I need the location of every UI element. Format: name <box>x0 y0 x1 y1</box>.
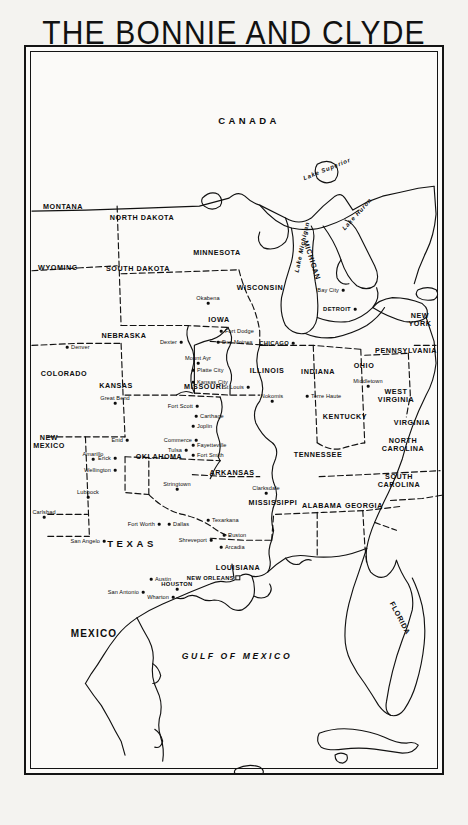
city-marker <box>220 546 223 549</box>
map-geometry <box>26 47 442 773</box>
city-marker <box>168 523 171 526</box>
city-marker <box>185 449 188 452</box>
city-marker <box>114 457 117 460</box>
city-marker <box>114 402 117 405</box>
city-marker <box>158 523 161 526</box>
city-marker <box>271 400 274 403</box>
city-marker <box>217 341 220 344</box>
city-marker <box>197 362 200 365</box>
city-marker <box>196 405 199 408</box>
city-marker <box>367 385 370 388</box>
city-marker <box>103 540 106 543</box>
city-marker <box>66 346 69 349</box>
city-marker <box>176 588 179 591</box>
city-marker <box>207 302 210 305</box>
city-marker <box>87 496 90 499</box>
city-marker <box>126 439 129 442</box>
map-frame: CANADAMEXICOMONTANAWYOMINGNORTH DAKOTASO… <box>24 45 444 775</box>
city-marker <box>192 444 195 447</box>
city-marker <box>210 539 213 542</box>
city-marker <box>223 534 226 537</box>
city-marker <box>235 575 240 580</box>
city-marker <box>150 578 153 581</box>
city-marker <box>342 289 345 292</box>
city-marker <box>306 395 309 398</box>
city-marker <box>195 415 198 418</box>
city-marker <box>142 591 145 594</box>
city-marker <box>176 488 179 491</box>
city-marker <box>43 516 46 519</box>
city-marker <box>172 596 175 599</box>
city-marker <box>207 519 210 522</box>
city-marker <box>114 469 117 472</box>
city-marker <box>265 492 268 495</box>
city-marker <box>220 330 223 333</box>
city-marker <box>92 458 95 461</box>
city-marker <box>192 425 195 428</box>
city-marker <box>292 342 295 345</box>
city-marker <box>192 369 195 372</box>
city-marker <box>247 386 250 389</box>
city-marker <box>192 381 195 384</box>
city-marker <box>180 341 183 344</box>
city-marker <box>354 308 357 311</box>
city-marker <box>192 454 195 457</box>
city-marker <box>195 439 198 442</box>
